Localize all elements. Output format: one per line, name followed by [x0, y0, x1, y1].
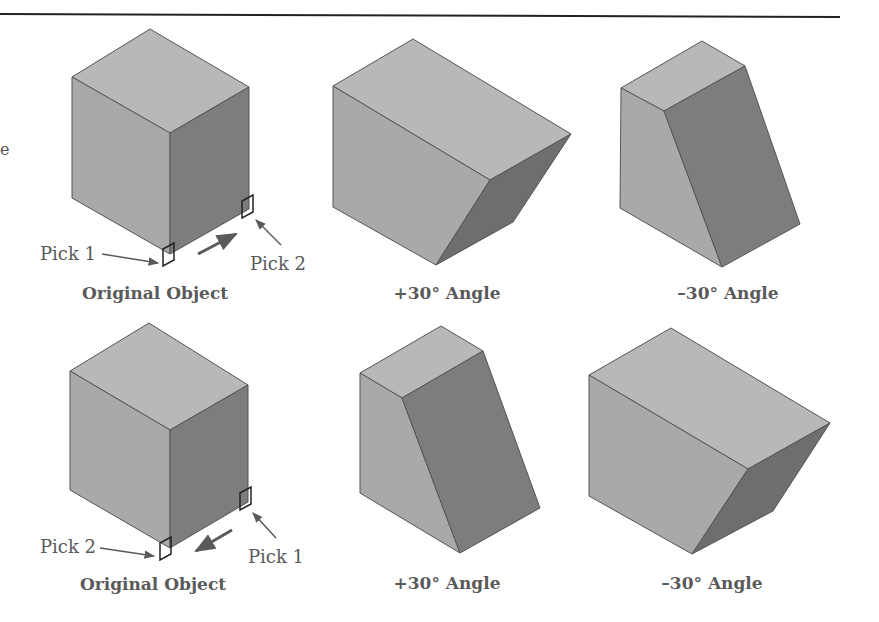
pick-1-label-bottom-row: Pick 1 [248, 546, 304, 567]
pick2-leader-arrow [256, 220, 281, 245]
top-rule [0, 14, 840, 17]
caption-plus30-top-row: +30° Angle [393, 283, 500, 303]
figure-drawing [0, 0, 879, 622]
pick-2-label-bottom-row: Pick 2 [40, 536, 96, 557]
direction-arrow-bottom-row [196, 530, 232, 551]
direction-arrow-top-row [198, 234, 236, 254]
pick2-leader-arrow [100, 548, 154, 556]
wedge-plus30-bottom-row [360, 326, 540, 553]
original-cube-bottom-row [70, 323, 248, 548]
caption-plus30-bottom-row: +30° Angle [393, 573, 500, 593]
wedge-minus30-bottom-row [589, 328, 830, 554]
pick1-leader-arrow [102, 254, 158, 263]
pick-1-label-top-row: Pick 1 [40, 243, 96, 264]
caption-minus30-top-row: –30° Angle [677, 283, 778, 303]
wedge-plus30-top-row [333, 39, 571, 265]
cropped-text-fragment: e [0, 140, 9, 159]
pick-2-label-top-row: Pick 2 [250, 253, 306, 274]
caption-minus30-bottom-row: –30° Angle [661, 573, 762, 593]
caption-original-object-top-row: Original Object [82, 283, 228, 303]
caption-original-object-bottom-row: Original Object [80, 574, 226, 594]
wedge-minus30-top-row [620, 41, 800, 267]
pick1-leader-arrow [253, 513, 276, 538]
wedge-angle-figure: e Pick 1 Pick 2 Original Object +30° Ang… [0, 0, 879, 622]
original-cube-top-row [72, 29, 249, 254]
